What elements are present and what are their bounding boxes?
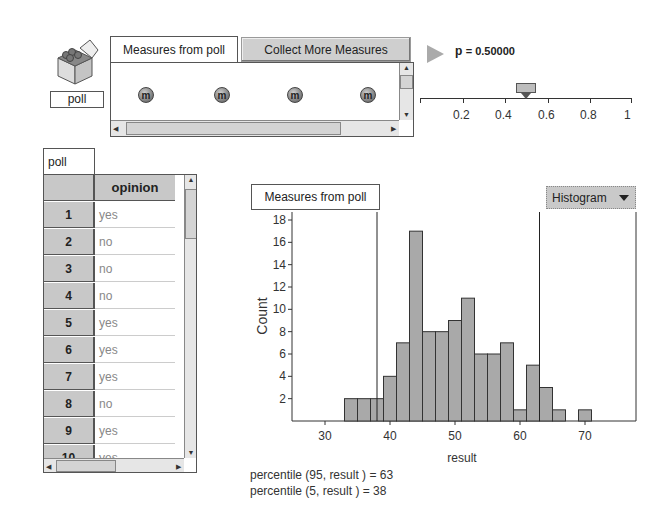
y-tick-label: 6 [279,347,286,361]
histogram-bar[interactable] [449,321,462,422]
histogram-bar[interactable] [527,365,540,421]
histogram-bar[interactable] [358,399,371,421]
y-tick-label: 10 [273,302,287,316]
y-tick-label: 4 [279,369,286,383]
y-tick-label: 18 [273,213,287,227]
histogram-plot[interactable]: 246810121416183040506070resultCount [0,0,668,529]
x-tick-label: 70 [578,429,592,443]
y-tick-label: 8 [279,325,286,339]
histogram-bar[interactable] [384,376,397,421]
y-axis-label[interactable]: Count [254,297,270,334]
x-tick-label: 40 [383,429,397,443]
histogram-bar[interactable] [475,354,488,421]
histogram-bar[interactable] [397,343,410,421]
histogram-bar[interactable] [501,343,514,421]
y-tick-label: 12 [273,280,287,294]
y-tick-label: 16 [273,235,287,249]
histogram-bar[interactable] [579,410,592,421]
x-tick-label: 30 [318,429,332,443]
y-tick-label: 2 [279,392,286,406]
x-tick-label: 50 [448,429,462,443]
x-tick-label: 60 [513,429,527,443]
histogram-bar[interactable] [540,388,553,422]
x-axis-label[interactable]: result [447,451,477,465]
histogram-bar[interactable] [553,410,566,421]
percentile-5-formula[interactable]: percentile (5, result ) = 38 [250,484,386,498]
histogram-bar[interactable] [462,298,475,421]
histogram-bar[interactable] [436,332,449,421]
histogram-bar[interactable] [423,332,436,421]
histogram-bar[interactable] [410,231,423,421]
y-tick-label: 14 [273,258,287,272]
histogram-bar[interactable] [514,410,527,421]
percentile-95-formula[interactable]: percentile (95, result ) = 63 [250,468,393,482]
histogram-bar[interactable] [345,399,358,421]
histogram-bar[interactable] [488,354,501,421]
